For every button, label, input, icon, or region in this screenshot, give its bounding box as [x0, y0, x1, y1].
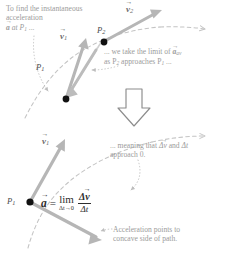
limit-note-a-vector-arrow: → [172, 42, 179, 50]
label-point-p2: P2 [97, 25, 105, 35]
label-v1-top-vector-arrow: → [60, 25, 67, 33]
limit-note-ellipsis: ... [164, 57, 172, 66]
equation-numerator: Δv → [78, 192, 91, 203]
annotation-caption: Acceleration points to concave side of p… [113, 225, 221, 244]
point-p1-top [63, 96, 70, 103]
equation-fraction: Δv → Δt [78, 192, 91, 214]
trajectory-path-top [25, 27, 205, 118]
acceleration-limit-equation: a → = lim Δt→0 Δv → Δt [41, 192, 91, 214]
meaning-note-line-1: ... meaning that Δv → and Δt [110, 141, 222, 150]
label-v1-top-subscript: 1 [64, 34, 67, 41]
label-p2-subscript: 2 [102, 28, 105, 35]
intro-line-1: To find the instantaneous [6, 4, 132, 13]
annotation-limit-note: ... we take the limit of a → av as P2 ap… [104, 47, 224, 67]
meaning-note-line-2: approach 0. [110, 150, 222, 159]
label-p1-bottom-subscript: 1 [12, 199, 15, 206]
leader-caption-to-acceleration [101, 229, 112, 231]
label-p1-top-subscript: 1 [41, 65, 44, 72]
equation-equals-sign: = [50, 197, 56, 209]
equation-denominator: Δt [79, 205, 89, 214]
point-p2-top [101, 39, 108, 46]
down-block-arrow-icon [118, 89, 150, 126]
leader-meaningnote-to-path [131, 160, 140, 190]
meaning-note-and: and [167, 141, 182, 150]
label-v2-subscript: 2 [130, 7, 133, 14]
figure-canvas: To find the instantaneous acceleration a… [0, 0, 225, 254]
point-p1-bottom [26, 198, 33, 205]
caption-line-2: concave side of path. [113, 234, 221, 243]
intro-a-vector-arrow: → [6, 17, 13, 25]
limit-note-av-subscript: av [176, 50, 181, 56]
annotation-meaning-note: ... meaning that Δv → and Δt approach 0. [110, 141, 222, 160]
limit-note-line-2: as P2 approaches P1 ... [104, 57, 224, 67]
intro-line-3: a → at P1 ... [6, 23, 132, 33]
caption-line-1: Acceleration points to [113, 225, 221, 234]
limit-note-as-p: as P [104, 57, 116, 66]
limit-note-approaches: approaches P [119, 57, 161, 66]
label-point-p1-bottom: P1 [7, 196, 15, 206]
equation-a-vector-arrow: → [41, 190, 49, 199]
equation-delta-v-vector-arrow: → [84, 186, 91, 193]
meaning-note-v-vector-arrow: → [161, 136, 168, 144]
annotation-intro: To find the instantaneous acceleration a… [6, 4, 132, 32]
limit-note-prefix: ... we take the limit of [104, 47, 173, 56]
meaning-note-delta-t: Δt [182, 141, 189, 150]
label-v1-bottom-subscript: 1 [46, 139, 49, 146]
intro-line-2: acceleration [6, 13, 132, 22]
limit-note-line-1: ... we take the limit of a → av [104, 47, 224, 57]
label-v1-top: v → 1 [60, 31, 67, 41]
label-v1-bottom-vector-arrow: → [42, 130, 49, 138]
label-v1-bottom: v → 1 [42, 136, 49, 146]
label-v2-top: v → 2 [126, 4, 133, 14]
vector-diagram-artwork [0, 0, 225, 254]
label-point-p1-top: P1 [36, 62, 44, 72]
meaning-note-prefix: ... meaning that [110, 141, 159, 150]
label-v2-vector-arrow: → [126, 0, 133, 6]
intro-ellipsis: ... [27, 23, 35, 32]
equation-limit-operator: lim Δt→0 [59, 194, 74, 211]
equation-lim-subscript: Δt→0 [59, 205, 74, 211]
